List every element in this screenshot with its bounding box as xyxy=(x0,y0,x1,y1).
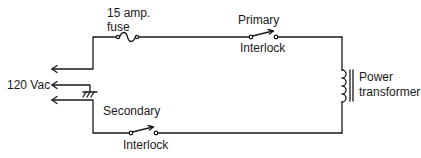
secondary-interlock-label: Interlock xyxy=(123,138,168,152)
transformer-label-line2: transformer xyxy=(359,85,420,99)
transformer-icon xyxy=(342,37,353,133)
primary-interlock-switch-icon xyxy=(249,30,278,39)
top-wire xyxy=(52,37,342,69)
primary-label: Primary xyxy=(238,13,279,27)
transformer-label-line1: Power xyxy=(359,70,393,84)
fuse-label-line1: 15 amp. xyxy=(107,6,150,20)
bottom-wire xyxy=(52,100,342,133)
fuse-label-line2: fuse xyxy=(107,20,130,34)
circuit-schematic xyxy=(0,0,421,158)
chassis-ground-icon xyxy=(83,92,97,97)
primary-interlock-label: Interlock xyxy=(240,41,285,55)
secondary-interlock-switch-icon xyxy=(129,126,158,135)
secondary-label: Secondary xyxy=(103,104,160,118)
circuit-diagram: 15 amp. fuse Primary Interlock 120 Vac S… xyxy=(0,0,421,158)
voltage-label: 120 Vac xyxy=(7,78,50,92)
ground-wire xyxy=(52,85,90,92)
